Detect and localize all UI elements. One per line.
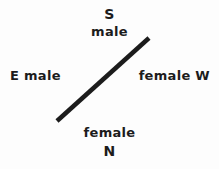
label-direction-north: N xyxy=(0,144,219,158)
label-sex-top-male: male xyxy=(0,25,219,38)
label-direction-south: S xyxy=(0,7,219,21)
label-sex-bottom-female: female xyxy=(0,126,219,139)
axis-line-segment xyxy=(57,38,149,121)
diagram-canvas: S male E male female W female N xyxy=(0,0,219,169)
label-east-male: E male xyxy=(10,69,61,82)
label-female-west: female W xyxy=(139,69,210,82)
